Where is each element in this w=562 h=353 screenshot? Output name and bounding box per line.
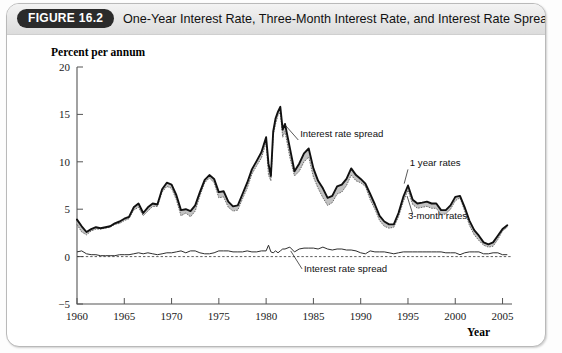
y-tick-label: 10 (59, 156, 71, 168)
spread-shaded-band (77, 107, 507, 247)
y-tick-label: 20 (59, 61, 71, 73)
x-tick-label: 1980 (255, 310, 278, 322)
series-1-year-rates (77, 107, 507, 245)
chart-plot-area: Percent per annum Year −5051015201960196… (7, 34, 546, 347)
y-tick-label: 15 (59, 108, 71, 120)
x-tick-label: 1965 (113, 310, 136, 322)
x-tick-label: 1970 (161, 310, 184, 322)
x-tick-label: 1990 (350, 310, 373, 322)
x-tick-label: 1995 (397, 310, 420, 322)
annotation-leader-line (291, 251, 302, 269)
figure-title: One-Year Interest Rate, Three-Month Inte… (123, 10, 546, 28)
y-tick-label: −5 (58, 298, 70, 310)
x-tick-label: 1985 (302, 310, 325, 322)
series-interest-rate-spread (77, 245, 507, 256)
x-tick-label: 2000 (444, 310, 467, 322)
x-tick-label: 1960 (66, 310, 89, 322)
chart-annotation: 1 year rates (410, 157, 461, 168)
figure-number-badge: FIGURE 16.2 (17, 9, 114, 28)
y-tick-label: 5 (65, 203, 71, 215)
x-tick-label: 2005 (492, 310, 515, 322)
axis-lines (77, 67, 512, 304)
figure-container: FIGURE 16.2 One-Year Interest Rate, Thre… (6, 3, 546, 347)
chart-annotation: 3-month rates (408, 210, 467, 221)
chart-annotation: Interest rate spread (300, 128, 383, 139)
chart-annotation: Interest rate spread (304, 263, 387, 274)
x-tick-label: 1975 (208, 310, 231, 322)
y-tick-label: 0 (65, 251, 71, 263)
interest-rate-chart: −505101520196019651970197519801985199019… (7, 34, 546, 347)
annotation-leader-line (404, 169, 408, 183)
